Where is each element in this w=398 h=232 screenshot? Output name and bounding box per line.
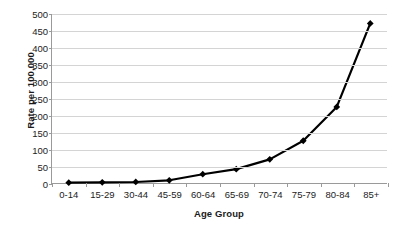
data-point-marker — [65, 179, 72, 186]
y-tick-label: 400 — [4, 43, 48, 54]
gridline — [52, 116, 387, 117]
x-tick-mark — [254, 183, 255, 187]
y-tick-label: 450 — [4, 26, 48, 37]
x-tick-mark — [287, 183, 288, 187]
gridline — [52, 133, 387, 134]
y-tick-label: 200 — [4, 111, 48, 122]
gridline — [52, 82, 387, 83]
y-tick-mark — [49, 167, 52, 168]
y-tick-label: 300 — [4, 77, 48, 88]
gridline — [52, 14, 387, 15]
y-tick-mark — [49, 14, 52, 15]
x-tick-mark — [321, 183, 322, 187]
x-tick-mark — [86, 183, 87, 187]
y-tick-label: 0 — [4, 179, 48, 190]
y-tick-mark — [49, 65, 52, 66]
plot-area: 0501001502002503003504004505000-1415-293… — [51, 14, 387, 184]
gridline — [52, 65, 387, 66]
gridline — [52, 48, 387, 49]
data-point-marker — [166, 177, 173, 184]
y-tick-mark — [49, 99, 52, 100]
y-tick-mark — [49, 150, 52, 151]
data-point-marker — [132, 179, 139, 186]
gridline — [52, 31, 387, 32]
y-tick-mark — [49, 31, 52, 32]
data-point-marker — [99, 179, 106, 186]
y-tick-label: 100 — [4, 145, 48, 156]
y-tick-label: 350 — [4, 60, 48, 71]
gridline — [52, 150, 387, 151]
y-tick-mark — [49, 82, 52, 83]
gridline — [52, 99, 387, 100]
y-tick-label: 150 — [4, 128, 48, 139]
x-tick-mark — [354, 183, 355, 187]
x-tick-mark — [153, 183, 154, 187]
gridline — [52, 167, 387, 168]
y-tick-label: 50 — [4, 162, 48, 173]
y-tick-mark — [49, 116, 52, 117]
x-axis-title: Age Group — [51, 208, 387, 219]
data-point-marker — [367, 20, 374, 27]
x-tick-mark — [52, 183, 53, 187]
data-point-marker — [199, 171, 206, 178]
chart-container: Rate per 100,000 05010015020025030035040… — [0, 0, 398, 232]
x-tick-mark — [186, 183, 187, 187]
y-tick-label: 500 — [4, 9, 48, 20]
x-tick-label: 85+ — [349, 189, 393, 200]
x-tick-mark — [119, 183, 120, 187]
x-tick-mark — [388, 183, 389, 187]
x-tick-mark — [220, 183, 221, 187]
y-tick-mark — [49, 48, 52, 49]
y-tick-mark — [49, 133, 52, 134]
y-tick-label: 250 — [4, 94, 48, 105]
